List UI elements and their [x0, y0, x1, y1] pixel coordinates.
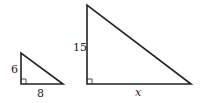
small-triangle: 6 8 — [11, 53, 63, 100]
small-vertical-leg-label: 6 — [11, 63, 18, 76]
large-vertical-leg-label: 15 — [73, 41, 87, 54]
large-triangle: 15 x — [73, 5, 191, 99]
large-horizontal-leg-label: x — [135, 86, 142, 99]
small-horizontal-leg-label: 8 — [37, 87, 44, 100]
triangles-diagram: 6 8 15 x — [0, 0, 203, 103]
